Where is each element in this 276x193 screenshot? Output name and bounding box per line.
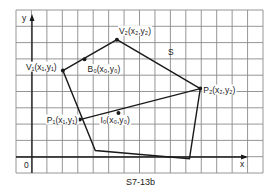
y-axis-arrow-icon <box>30 14 35 21</box>
label-p2: P₂(x₂,y₂) <box>203 85 235 95</box>
y-axis-label: y <box>22 13 27 23</box>
origin-label: 0 <box>24 160 29 170</box>
polygon-diagram: x y 0 V₁(x₁,y₁)V₂(x₂,y₂)P₂(x₂,y₂)B₀(x₀,y… <box>0 0 276 193</box>
point-marker-b0 <box>82 57 86 61</box>
label-v2: V₂(x₂,y₂) <box>119 26 151 36</box>
figure-caption: S7-13b <box>126 177 155 187</box>
point-marker-p2 <box>198 87 202 91</box>
label-v1: V₁(x₁,y₁) <box>26 62 57 72</box>
label-p1: P₁(x₁,y₁) <box>47 115 78 125</box>
x-axis-label: x <box>240 159 245 169</box>
label-i0: I₀(x₀,y₀) <box>100 115 130 125</box>
point-markers <box>61 38 202 122</box>
point-marker-v2 <box>115 38 119 42</box>
region-s-label: S <box>168 47 174 57</box>
point-marker-v1 <box>61 69 65 73</box>
line-segment-p1-p2 <box>80 89 200 120</box>
label-b0: B₀(x₀,y₀) <box>87 64 120 74</box>
